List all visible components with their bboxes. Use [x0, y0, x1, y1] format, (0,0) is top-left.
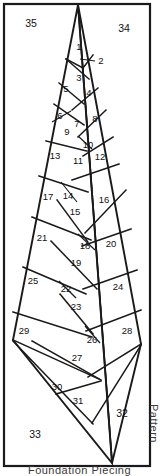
piece-number-21: 21: [37, 232, 48, 243]
piece-number-9: 9: [64, 126, 69, 137]
caption-bottom: Foundation Piecing: [0, 463, 159, 476]
piece-number-18: 18: [80, 240, 91, 251]
piece-number-7: 7: [74, 118, 79, 129]
piece-number-35: 35: [25, 17, 37, 29]
piece-number-19: 19: [71, 257, 82, 268]
piece-number-3: 3: [76, 72, 81, 83]
piece-number-15: 15: [70, 206, 81, 217]
piece-number-5: 5: [63, 83, 68, 94]
piece-number-11: 11: [73, 155, 83, 166]
piece-number-10: 10: [83, 139, 94, 150]
piece-number-34: 34: [118, 22, 130, 34]
piece-number-17: 17: [43, 191, 54, 202]
piece-number-14: 14: [63, 190, 74, 201]
piece-number-23: 23: [71, 301, 82, 312]
piece-number-16: 16: [99, 194, 110, 205]
piece-number-1: 1: [76, 41, 81, 52]
caption-side: Pattern: [148, 404, 160, 470]
piece-number-28: 28: [122, 325, 133, 336]
piece-number-6: 6: [57, 110, 62, 121]
piece-number-25: 25: [28, 275, 39, 286]
piece-number-29: 29: [19, 325, 30, 336]
piece-number-20: 20: [106, 238, 117, 249]
piece-number-27: 27: [72, 352, 83, 363]
piece-number-32: 32: [116, 407, 128, 419]
piece-number-22: 22: [61, 283, 72, 294]
piece-number-33: 33: [29, 428, 41, 440]
piece-number-4: 4: [86, 87, 91, 98]
piece-number-2: 2: [98, 55, 103, 66]
piece-number-24: 24: [113, 281, 124, 292]
piece-number-31: 31: [73, 395, 84, 406]
piece-number-30: 30: [52, 381, 63, 392]
piece-number-13: 13: [50, 150, 61, 161]
piece-number-8: 8: [92, 113, 97, 124]
piece-number-26: 26: [87, 334, 98, 345]
piece-number-12: 12: [95, 151, 106, 162]
